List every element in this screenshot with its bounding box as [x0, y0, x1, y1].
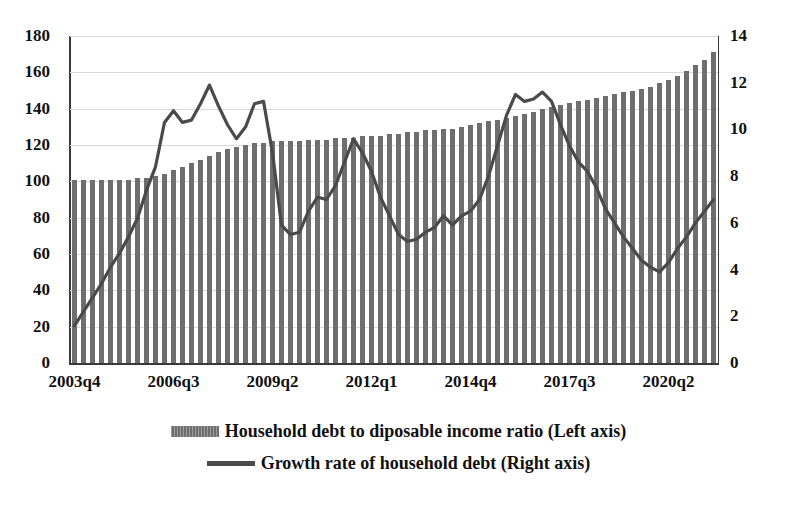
left-axis-tick: 60 [33, 245, 50, 262]
left-axis-tick: 100 [25, 172, 51, 189]
left-axis-tick: 160 [25, 63, 51, 80]
right-axis-tick: 4 [730, 261, 739, 278]
right-axis-tick: 0 [730, 354, 739, 371]
x-axis-tick: 2003q4 [49, 372, 101, 392]
left-axis-tick: 80 [33, 209, 50, 226]
line-swatch-icon [207, 461, 255, 466]
plot-area [70, 36, 718, 363]
left-axis-tick: 0 [42, 354, 51, 371]
left-axis-tick: 120 [25, 136, 51, 153]
bar-swatch-icon [171, 426, 219, 437]
left-axis-tick: 140 [25, 100, 51, 117]
x-axis-tick: 2017q3 [544, 372, 596, 392]
left-axis-tick: 40 [33, 281, 50, 298]
left-axis-tick: 180 [25, 27, 51, 44]
chart-legend: Household debt to diposable income ratio… [0, 415, 797, 479]
x-axis-tick: 2012q1 [346, 372, 398, 392]
growth-rate-polyline [75, 85, 714, 326]
right-axis-tick: 6 [730, 214, 739, 231]
left-axis-tick-labels: 020406080100120140160180 [0, 36, 58, 363]
legend-label-bar: Household debt to diposable income ratio… [225, 421, 627, 442]
chart-figure: 020406080100120140160180 02468101214 200… [0, 0, 797, 508]
x-axis-tick: 2009q2 [247, 372, 299, 392]
legend-item-line: Growth rate of household debt (Right axi… [0, 447, 797, 479]
bottom-axis-line [69, 363, 719, 365]
line-series [70, 36, 718, 363]
right-axis-tick: 8 [730, 167, 739, 184]
right-axis-tick: 10 [730, 120, 747, 137]
x-axis-tick: 2006q3 [148, 372, 200, 392]
right-axis-tick: 12 [730, 74, 747, 91]
x-axis-tick: 2014q4 [445, 372, 497, 392]
legend-label-line: Growth rate of household debt (Right axi… [261, 453, 591, 474]
right-axis-tick: 2 [730, 307, 739, 324]
x-axis-tick: 2020q2 [643, 372, 695, 392]
left-axis-tick: 20 [33, 318, 50, 335]
right-axis-tick-labels: 02468101214 [730, 36, 790, 363]
right-axis-tick: 14 [730, 27, 747, 44]
legend-item-bar: Household debt to diposable income ratio… [0, 415, 797, 447]
